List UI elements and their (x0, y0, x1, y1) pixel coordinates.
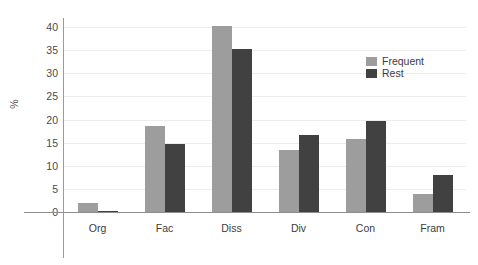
y-tick-label: 10 (30, 161, 58, 171)
bar-frequent-div (279, 150, 299, 212)
y-tick-label: 20 (30, 115, 58, 125)
y-axis-title: % (8, 99, 20, 108)
y-tick-label: 25 (30, 91, 58, 101)
legend-item-rest: Rest (366, 67, 424, 79)
bar-rest-con (366, 121, 386, 212)
x-axis-line (24, 212, 470, 213)
x-tick-label-diss: Diss (202, 222, 262, 234)
bar-frequent-fram (413, 194, 433, 213)
y-tick-label: 40 (30, 22, 58, 32)
bar-rest-diss (232, 49, 252, 212)
x-tick-label-org: Org (68, 222, 128, 234)
legend-label-rest: Rest (382, 67, 404, 79)
y-tick-label: 30 (30, 68, 58, 78)
legend-label-frequent: Frequent (382, 55, 424, 67)
y-axis-line (63, 18, 64, 258)
gridline (64, 50, 466, 51)
legend-item-frequent: Frequent (366, 55, 424, 67)
gridline (64, 189, 466, 190)
x-tick-label-con: Con (336, 222, 396, 234)
gridline (64, 143, 466, 144)
bar-rest-fram (433, 175, 453, 212)
gridline (64, 96, 466, 97)
plot-area (64, 20, 466, 212)
legend-swatch-icon-rest (366, 69, 377, 78)
bar-frequent-diss (212, 26, 232, 212)
y-tick-label: 35 (30, 45, 58, 55)
y-tick-label: 5 (30, 184, 58, 194)
gridline (64, 27, 466, 28)
y-tick-label: 15 (30, 138, 58, 148)
legend-swatch-icon-frequent (366, 57, 377, 66)
bar-frequent-org (78, 203, 98, 212)
bar-rest-div (299, 135, 319, 212)
legend: Frequent Rest (366, 55, 424, 79)
gridline (64, 166, 466, 167)
bar-frequent-fac (145, 126, 165, 212)
bar-frequent-con (346, 139, 366, 212)
x-tick-label-fac: Fac (135, 222, 195, 234)
bar-rest-fac (165, 144, 185, 212)
x-tick-label-fram: Fram (403, 222, 463, 234)
x-tick-label-div: Div (269, 222, 329, 234)
gridline (64, 120, 466, 121)
bar-chart: 0510152025303540 % OrgFacDissDivConFram … (0, 0, 478, 265)
